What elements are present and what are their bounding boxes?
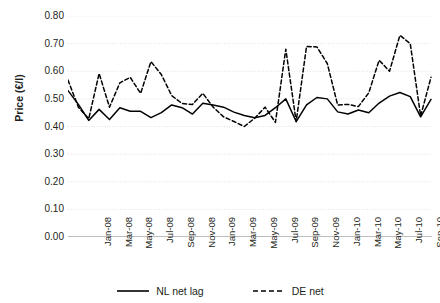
x-tick-label: Nov-09	[319, 240, 329, 286]
x-tick-label: Mar-08	[112, 240, 122, 286]
x-tick-label: Mar-10	[361, 240, 371, 286]
x-tick-label: Jul-08	[153, 240, 163, 286]
legend-swatch-solid-icon	[116, 286, 150, 296]
legend-swatch-dashed-icon	[252, 286, 286, 296]
legend-label-nl-net-lag: NL net lag	[156, 285, 203, 297]
x-tick-label: Mar-09	[236, 240, 246, 286]
x-tick-label: Jan-09	[215, 240, 225, 286]
y-tick-label: 0.30	[30, 149, 64, 159]
x-tick-label: Sep-09	[298, 240, 308, 286]
x-tick-label: May-08	[132, 240, 142, 286]
series-line-nl-net-lag	[68, 91, 431, 122]
y-tick-label: 0.80	[30, 11, 64, 21]
x-tick-label: Sep-10	[423, 240, 433, 286]
y-axis-tick-labels: 0.800.700.600.500.400.300.200.100.00	[30, 0, 64, 303]
y-tick-label: 0.70	[30, 39, 64, 49]
legend-item-nl-net-lag: NL net lag	[116, 285, 203, 297]
x-tick-label: Jul-09	[278, 240, 288, 286]
x-tick-label: May-10	[381, 240, 391, 286]
x-tick-label: Jan-08	[91, 240, 101, 286]
series-line-de-net	[68, 35, 431, 126]
y-tick-label: 0.60	[30, 66, 64, 76]
x-tick-label: Jul-10	[402, 240, 412, 286]
x-tick-label: Jan-10	[340, 240, 350, 286]
plot-area	[68, 16, 432, 237]
y-tick-label: 0.40	[30, 122, 64, 132]
plot-svg	[68, 16, 432, 237]
y-tick-label: 0.50	[30, 94, 64, 104]
x-tick-label: May-09	[257, 240, 267, 286]
legend-label-de-net: DE net	[292, 285, 324, 297]
x-tick-label: Nov-08	[195, 240, 205, 286]
legend-item-de-net: DE net	[252, 285, 324, 297]
x-tick-label: Sep-08	[174, 240, 184, 286]
price-line-chart: Price (€/l) 0.800.700.600.500.400.300.20…	[0, 0, 440, 303]
y-axis-title: Price (€/l)	[13, 43, 25, 153]
y-tick-label: 0.00	[30, 232, 64, 242]
y-tick-label: 0.10	[30, 204, 64, 214]
y-tick-label: 0.20	[30, 177, 64, 187]
chart-legend: NL net lag DE net	[0, 281, 440, 301]
